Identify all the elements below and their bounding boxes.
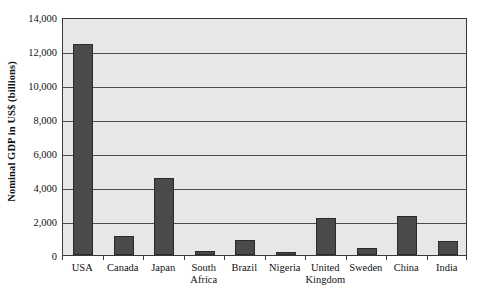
bars-layer — [63, 19, 466, 255]
x-axis-category-label: India — [421, 262, 474, 274]
x-axis-tick — [103, 256, 104, 260]
y-axis-tick-labels: 14,00012,00010,0008,0006,0004,0002,0000 — [20, 0, 60, 304]
x-axis-category-label-line2: Kingdom — [299, 274, 352, 286]
bar — [316, 218, 336, 255]
bar — [397, 216, 417, 255]
x-axis-tick — [265, 256, 266, 260]
x-axis-category-label-line1: Canada — [107, 262, 139, 273]
x-axis-tick — [143, 256, 144, 260]
x-axis-tick — [184, 256, 185, 260]
y-axis-tick-label: 14,000 — [28, 13, 57, 24]
x-axis-category-label-line1: Japan — [151, 262, 175, 273]
bar — [438, 241, 458, 255]
x-axis-category-label-line1: South — [191, 262, 216, 273]
bar — [114, 236, 134, 255]
x-axis-tick — [346, 256, 347, 260]
x-axis-category-label-line1: India — [436, 262, 458, 273]
bar — [73, 44, 93, 255]
x-axis-category-label-line1: Nigeria — [269, 262, 301, 273]
x-axis-tick — [466, 256, 467, 260]
y-axis-tick-label: 0 — [52, 251, 57, 262]
y-axis-tick-label: 2,000 — [33, 217, 57, 228]
x-axis-category-label-line1: Sweden — [349, 262, 382, 273]
y-axis-tick-label: 4,000 — [33, 183, 57, 194]
gdp-bar-chart: Nominal GDP in US$ (billions) 14,00012,0… — [0, 0, 483, 304]
x-axis-labels: USACanadaJapanSouthAfricaBrazilNigeriaUn… — [62, 262, 467, 304]
y-axis-tick-label: 12,000 — [28, 47, 57, 58]
x-axis-tick — [386, 256, 387, 260]
bar — [276, 252, 296, 255]
x-axis-tick — [224, 256, 225, 260]
x-axis-category-label-line2: Africa — [178, 274, 231, 286]
bar — [235, 240, 255, 255]
y-axis-title-text: Nominal GDP in US$ (billions) — [6, 61, 17, 202]
bar — [154, 178, 174, 255]
plot-area — [62, 18, 467, 256]
x-axis-category-label-line1: USA — [72, 262, 93, 273]
y-axis-tick-label: 8,000 — [33, 115, 57, 126]
bar — [357, 248, 377, 255]
x-axis-tick — [305, 256, 306, 260]
x-axis-tick — [62, 256, 63, 260]
x-axis-tick — [427, 256, 428, 260]
y-axis-title: Nominal GDP in US$ (billions) — [0, 0, 22, 262]
bar — [195, 251, 215, 255]
y-axis-tick-label: 10,000 — [28, 81, 57, 92]
y-axis-tick-label: 6,000 — [33, 149, 57, 160]
x-axis-category-label-line1: United — [311, 262, 340, 273]
x-axis-category-label-line1: Brazil — [231, 262, 257, 273]
x-axis-category-label-line1: China — [394, 262, 419, 273]
